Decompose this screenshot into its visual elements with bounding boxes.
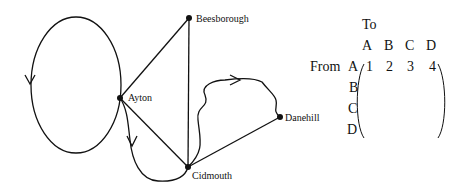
node-ayton xyxy=(117,95,123,101)
node-danehill xyxy=(277,114,283,120)
node-cidmouth xyxy=(185,164,191,170)
node-label-beesborough: Beesborough xyxy=(196,13,249,24)
row-header: A xyxy=(348,59,358,75)
left-bracket xyxy=(357,64,364,138)
matrix-cell: 4 xyxy=(429,59,436,75)
col-header: B xyxy=(384,38,393,54)
matrix-cell: 2 xyxy=(386,59,393,75)
node-label-ayton: Ayton xyxy=(128,92,152,103)
node-label-cidmouth: Cidmouth xyxy=(192,170,232,181)
row-header: D xyxy=(347,122,357,138)
arrow-ayton-cidmouth xyxy=(127,136,137,146)
route-graph xyxy=(0,0,470,190)
node-beesborough xyxy=(186,15,192,21)
matrix-cell: 3 xyxy=(407,59,414,75)
node-label-danehill: Danehill xyxy=(285,112,319,123)
edge-beesborough-cidmouth xyxy=(188,18,189,167)
arrow-loop xyxy=(25,75,35,84)
curved-edge-ayton-cidmouth xyxy=(120,98,188,181)
wiggly-edge-cidmouth-danehill xyxy=(188,79,280,167)
row-header: C xyxy=(348,101,357,117)
right-bracket xyxy=(438,64,445,138)
row-header: B xyxy=(349,80,358,96)
matrix-cell: 1 xyxy=(366,59,373,75)
matrix-from-label: From xyxy=(310,59,340,75)
loop-edge-ayton xyxy=(31,17,121,153)
col-header: A xyxy=(362,38,372,54)
arrow-wiggly xyxy=(230,75,240,85)
edge-ayton-cidmouth xyxy=(120,98,188,167)
matrix-to-label: To xyxy=(362,17,377,33)
col-header: D xyxy=(426,38,436,54)
col-header: C xyxy=(405,38,414,54)
edge-cidmouth-danehill xyxy=(188,117,280,167)
edge-ayton-beesborough xyxy=(120,18,189,98)
